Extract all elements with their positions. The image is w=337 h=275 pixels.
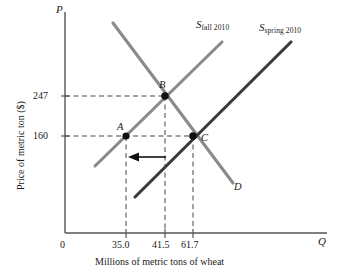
curve-label-supply-spring-subscript: spring 2010: [265, 26, 302, 35]
origin-label: 0: [60, 240, 65, 250]
x-axis-symbol: Q: [318, 236, 326, 247]
y-axis-title: Price of metric ton ($): [16, 101, 26, 190]
curve-label-supply-fall-subscript: fall 2010: [202, 23, 230, 32]
point-label-C: C: [201, 133, 208, 144]
curve-supply-spring: [135, 42, 291, 197]
curve-supply-fall: [95, 42, 222, 166]
point-label-A: A: [117, 122, 123, 133]
point-marker-B: [161, 92, 169, 100]
x-axis-title: Millions of metric tons of wheat: [95, 257, 224, 267]
curve-label-demand: D: [234, 182, 242, 193]
x-tick-label-61: 61.7: [181, 240, 199, 250]
x-tick-label-35: 35.0: [112, 240, 130, 250]
point-marker-A: [122, 132, 129, 139]
shift-arrow-icon: [128, 153, 166, 162]
point-label-B: B: [159, 80, 165, 91]
point-marker-C: [189, 132, 197, 140]
y-tick-label-247: 247: [33, 91, 48, 101]
x-tick-label-41: 41.5: [152, 240, 170, 250]
curve-label-supply-spring: Sspring 2010: [259, 22, 301, 34]
chart-plot-area: [0, 0, 337, 275]
curve-label-supply-fall: Sfall 2010: [196, 19, 229, 31]
y-tick-label-160: 160: [33, 131, 48, 141]
y-axis-symbol: P: [56, 4, 63, 15]
chart-figure: P Q 0 247 160 35.0 41.5 61.7 A B C Sfall…: [0, 0, 337, 275]
